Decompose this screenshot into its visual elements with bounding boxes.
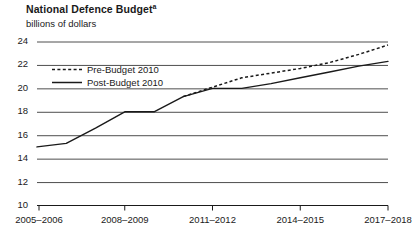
chart-legend: Pre-Budget 2010 Post-Budget 2010: [52, 63, 163, 89]
solid-line-icon: [52, 78, 82, 87]
legend-label-post-budget: Post-Budget 2010: [87, 76, 163, 89]
x-axis-tick-label: 2017–2018: [364, 214, 412, 225]
dashed-line-icon: [52, 65, 82, 74]
legend-label-pre-budget: Pre-Budget 2010: [87, 63, 159, 76]
x-axis-tick-label: 2008–2009: [101, 214, 149, 225]
legend-item-pre-budget: Pre-Budget 2010: [52, 63, 163, 76]
y-axis-tick-label: 16: [6, 130, 28, 140]
y-axis-tick-label: 22: [6, 59, 28, 69]
y-axis-tick-label: 12: [6, 177, 28, 187]
x-axis-tick-label: 2014–2015: [276, 214, 324, 225]
legend-item-post-budget: Post-Budget 2010: [52, 76, 163, 89]
y-axis-tick-label: 14: [6, 153, 28, 163]
x-axis-tick-label: 2005–2006: [15, 214, 63, 225]
y-axis-tick-label: 20: [6, 83, 28, 93]
y-axis-tick-label: 24: [6, 36, 28, 46]
y-axis-tick-label: 10: [6, 200, 28, 210]
axis-ticks: [39, 206, 388, 211]
x-axis-tick-label: 2011–2012: [189, 214, 236, 225]
y-axis-tick-label: 18: [6, 106, 28, 116]
